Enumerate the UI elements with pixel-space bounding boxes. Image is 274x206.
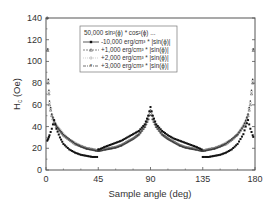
series-0: [46, 106, 254, 158]
y-tick-80: 80: [32, 78, 42, 88]
y-tick-20: 20: [32, 143, 42, 153]
y-tick-40: 40: [32, 122, 42, 132]
y-tick-60: 60: [32, 100, 42, 110]
legend: 50,000 sin²(ϕ) * cos²(ϕ) ... -10,000 erg…: [80, 26, 177, 72]
x-axis-title: Sample angle (deg): [109, 188, 192, 199]
chart: 0 20 40 60 80 100 120 140 0 45 90 135 18…: [0, 0, 274, 206]
y-tick-120: 120: [27, 35, 42, 45]
x-tick-45: 45: [93, 174, 103, 184]
legend-entry-0: -10,000 erg/cm³ * |sin(ϕ)|: [101, 38, 171, 46]
y-axis-title: Hc (Oe): [11, 78, 23, 110]
x-tick-0: 0: [43, 174, 48, 184]
legend-entry-3: +3,000 erg/cm³ * |sin(ϕ)|: [101, 62, 169, 70]
x-tick-labels: 0 45 90 135 180: [43, 174, 262, 184]
y-tick-labels: 0 20 40 60 80 100 120 140: [27, 13, 42, 175]
x-tick-180: 180: [247, 174, 262, 184]
x-tick-90: 90: [145, 174, 155, 184]
y-tick-0: 0: [37, 165, 42, 175]
legend-entry-2: +2,000 erg/cm³ * |sin(ϕ)|: [101, 54, 169, 62]
y-tick-100: 100: [27, 56, 42, 66]
legend-marker-square: [90, 41, 92, 43]
legend-entry-1: +1,000 erg/cm³ * |sin(ϕ)|: [101, 46, 169, 54]
x-tick-135: 135: [195, 174, 210, 184]
legend-title: 50,000 sin²(ϕ) * cos²(ϕ) ...: [84, 29, 156, 37]
y-tick-140: 140: [27, 13, 42, 23]
